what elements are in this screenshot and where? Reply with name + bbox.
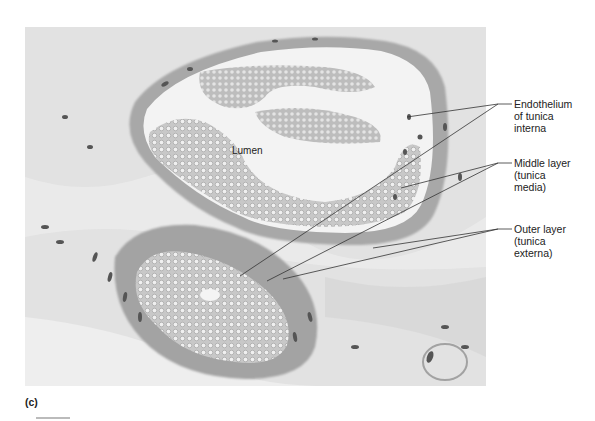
- label-endothelium-line1: Endothelium: [514, 98, 572, 110]
- label-middle-line3: media): [514, 181, 571, 193]
- label-endothelium-line2: of tunica: [514, 110, 572, 122]
- label-middle-layer: Middle layer (tunica media): [514, 157, 571, 193]
- label-middle-line1: Middle layer: [514, 157, 571, 169]
- label-outer-line1: Outer layer: [514, 223, 566, 235]
- label-outer-layer: Outer layer (tunica externa): [514, 223, 566, 259]
- lumen-label: Lumen: [232, 145, 263, 156]
- scale-bar: [36, 417, 70, 419]
- micrograph-image: [25, 27, 486, 386]
- label-middle-line2: (tunica: [514, 169, 571, 181]
- label-outer-line2: (tunica: [514, 235, 566, 247]
- panel-letter: (c): [25, 396, 38, 408]
- label-endothelium: Endothelium of tunica interna: [514, 98, 572, 134]
- histology-figure: Lumen Endothelium of tunica interna Midd…: [0, 0, 595, 421]
- label-endothelium-line3: interna: [514, 122, 572, 134]
- label-outer-line3: externa): [514, 247, 566, 259]
- micrograph-svg: [25, 27, 486, 386]
